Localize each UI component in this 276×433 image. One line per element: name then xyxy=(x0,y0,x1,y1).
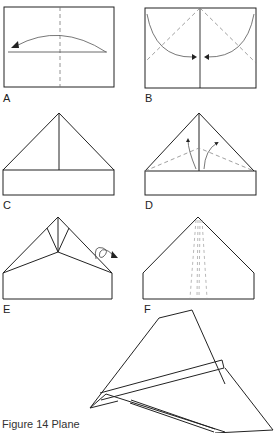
step-d-diagram xyxy=(145,113,256,195)
arrowhead-icon xyxy=(11,41,19,48)
step-f-diagram xyxy=(143,217,254,299)
turn-over-icon xyxy=(95,247,113,259)
step-label-e: E xyxy=(3,303,10,315)
step-label-a: A xyxy=(3,92,10,104)
step-label-b: B xyxy=(145,92,152,104)
finished-plane-diagram xyxy=(90,310,273,433)
step-label-f: F xyxy=(144,303,151,315)
step-b-diagram xyxy=(145,8,256,88)
step-e-diagram xyxy=(3,217,118,299)
step-a-diagram xyxy=(4,7,114,87)
arrowhead-icon xyxy=(192,54,197,60)
step-label-d: D xyxy=(145,199,153,211)
step-c-diagram xyxy=(3,113,114,195)
folding-diagram xyxy=(0,0,276,433)
figure-caption: Figure 14 Plane xyxy=(2,418,80,430)
arrowhead-icon xyxy=(204,54,209,60)
step-label-c: C xyxy=(3,199,11,211)
